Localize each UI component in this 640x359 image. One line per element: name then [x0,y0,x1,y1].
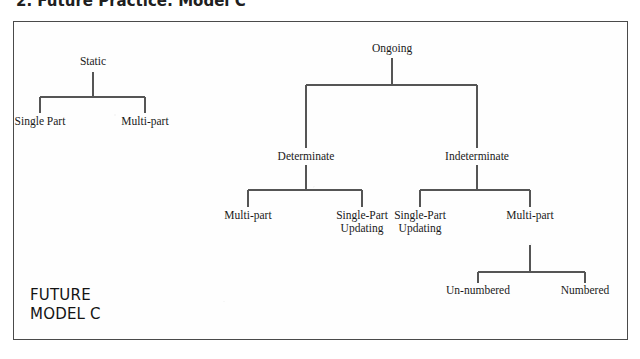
node-multi-part-determinate[interactable]: Multi-part [212,209,284,222]
figure-caption-line-2: MODEL C [30,305,101,324]
node-indeterminate[interactable]: Indeterminate [445,150,509,163]
node-numbered[interactable]: Numbered [549,284,621,297]
node-single-part[interactable]: Single Part [4,115,76,128]
page-running-header: 2. Future Practice: Model C [16,0,356,8]
node-determinate[interactable]: Determinate [278,150,335,163]
node-multi-part-static[interactable]: Multi-part [109,115,181,128]
node-single-part-updating-indeterminate[interactable]: Single-Part Updating [384,209,456,234]
node-multi-part-indeterminate[interactable]: Multi-part [494,209,566,222]
node-static[interactable]: Static [80,55,106,68]
figure-caption-line-1: FUTURE [30,286,101,305]
page-running-header-text: 2. Future Practice: Model C [16,0,356,8]
figure-caption: FUTURE MODEL C [30,286,101,324]
node-ongoing[interactable]: Ongoing [372,42,412,55]
figure-frame [13,21,628,340]
node-un-numbered[interactable]: Un-numbered [442,284,514,297]
